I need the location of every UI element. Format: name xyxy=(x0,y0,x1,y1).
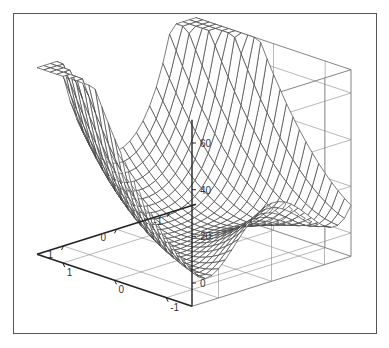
x-tick-label: 0 xyxy=(101,232,107,243)
x-tick-label: -1 xyxy=(154,216,163,227)
x-tick-label: 1 xyxy=(48,249,54,260)
z-tick-label: 60 xyxy=(200,138,212,149)
y-tick-label: 0 xyxy=(119,284,125,295)
y-tick-label: 1 xyxy=(67,267,73,278)
z-tick-label: 20 xyxy=(200,231,212,242)
z-tick-label: 0 xyxy=(200,278,206,289)
z-tick-label: 40 xyxy=(200,185,212,196)
y-tick-label: -1 xyxy=(170,302,179,313)
surface-plot: 0204060-101-101 xyxy=(0,0,389,348)
